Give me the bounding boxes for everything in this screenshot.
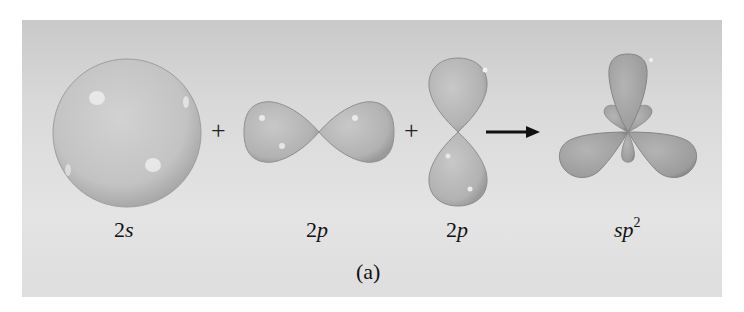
label-2p-vertical-number: 2	[446, 217, 457, 242]
label-2s-number: 2	[114, 217, 125, 242]
orbital-2p-vertical-shape	[429, 58, 488, 206]
label-2s-letter: s	[125, 217, 134, 242]
label-sp2: sp2	[614, 217, 641, 243]
label-2p-horizontal-number: 2	[306, 217, 317, 242]
label-2p-horizontal-letter: p	[317, 217, 328, 242]
label-sp2-letters: sp	[614, 217, 634, 242]
orbital-2s-shape	[53, 59, 201, 207]
label-2p-vertical-letter: p	[457, 217, 468, 242]
label-2s: 2s	[114, 217, 134, 243]
figure-caption: (a)	[356, 259, 380, 285]
plus-operator-2: +	[404, 116, 419, 146]
plus-operator-1: +	[211, 116, 226, 146]
orbital-2p-horizontal-shape	[244, 102, 394, 163]
label-2p-vertical: 2p	[446, 217, 468, 243]
arrow-icon	[486, 126, 540, 138]
orbital-sp2-shape	[559, 54, 696, 178]
label-2p-horizontal: 2p	[306, 217, 328, 243]
label-sp2-superscript: 2	[634, 215, 641, 230]
